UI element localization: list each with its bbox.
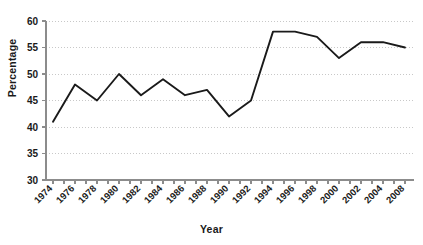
y-axis-tick-label: 40 [27, 122, 39, 133]
x-axis-tick-label: 2002 [340, 183, 363, 206]
x-axis-tick-label: 1982 [120, 183, 143, 206]
x-axis-tick-label: 1996 [274, 183, 297, 206]
y-axis-tick-label: 50 [27, 69, 39, 80]
x-axis-tick-label: 1986 [164, 183, 187, 206]
y-axis-tick-label: 35 [27, 148, 39, 159]
plot-area: 30354045505560 1974197619781980198219841… [0, 0, 423, 245]
y-axis-tick-label: 55 [27, 42, 39, 53]
x-axis-tick-labels: 1974197619781980198219841986198819901992… [32, 182, 407, 205]
x-axis-tick-label: 1984 [142, 182, 165, 205]
x-axis-tick-label: 2008 [384, 183, 407, 206]
y-axis-tick-label: 60 [27, 16, 39, 27]
data-series-line [53, 32, 405, 122]
x-axis-tick-label: 1994 [252, 182, 275, 205]
x-axis-tick-label: 1992 [230, 183, 253, 206]
line-chart: Percentage Year 30354045505560 197419761… [0, 0, 423, 245]
y-axis-tick-label: 30 [27, 175, 39, 186]
x-axis-tick-label: 1978 [76, 183, 99, 206]
x-axis-tick-label: 1980 [98, 183, 121, 206]
y-axis-tick-label: 45 [27, 95, 39, 106]
x-axis-tick-label: 1976 [54, 183, 77, 206]
x-axis-tick-label: 1998 [296, 183, 319, 206]
x-axis-tick-label: 1990 [208, 183, 231, 206]
series-percentage-line [53, 32, 405, 122]
x-axis-tick-label: 1988 [186, 183, 209, 206]
y-axis-tick-labels: 30354045505560 [27, 16, 39, 186]
x-axis-tick-label: 2004 [362, 182, 385, 205]
x-axis-tick-label: 2000 [318, 183, 341, 206]
x-axis-tick-label: 1974 [32, 182, 55, 205]
